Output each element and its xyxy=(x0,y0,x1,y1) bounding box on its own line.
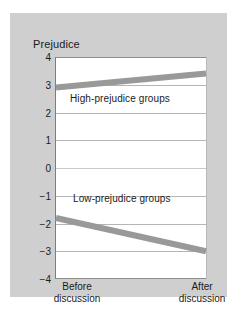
series-label-low-prejudice: Low-prejudice groups xyxy=(73,193,171,204)
y-axis: 4 3 2 1 0 −1 −2 −3 −4 xyxy=(18,57,51,279)
gridline-0 xyxy=(56,168,206,169)
gridline-3 xyxy=(56,85,206,86)
gridline-neg3 xyxy=(56,251,206,252)
y-tick-label: −1 xyxy=(21,190,51,201)
gridline-neg4 xyxy=(56,278,206,279)
y-tick-label: 4 xyxy=(21,52,51,63)
gridline-2 xyxy=(56,113,206,114)
x-tick-line2: discussion xyxy=(162,293,237,305)
x-tick-line1: Before xyxy=(37,281,117,293)
chart-card: Prejudice 4 3 2 1 0 −1 −2 −3 −4 xyxy=(10,13,227,297)
x-tick-line2: discussion xyxy=(37,293,117,305)
x-tick-label-before: Before discussion xyxy=(37,281,117,304)
y-tick-label: 2 xyxy=(21,107,51,118)
figure: Prejudice 4 3 2 1 0 −1 −2 −3 −4 xyxy=(0,0,237,318)
plot-area xyxy=(55,57,207,279)
gridline-4 xyxy=(56,57,206,58)
x-tick-label-after: After discussion xyxy=(162,281,237,304)
gridline-1 xyxy=(56,140,206,141)
y-tick-label: 1 xyxy=(21,135,51,146)
y-tick-label: −3 xyxy=(21,246,51,257)
y-tick-label: −2 xyxy=(21,218,51,229)
x-tick-line1: After xyxy=(162,281,237,293)
y-tick-label: 0 xyxy=(21,163,51,174)
series-label-high-prejudice: High-prejudice groups xyxy=(70,93,170,104)
page-title: Prejudice xyxy=(33,38,80,50)
gridline-neg2 xyxy=(56,224,206,225)
y-tick-label: 3 xyxy=(21,79,51,90)
